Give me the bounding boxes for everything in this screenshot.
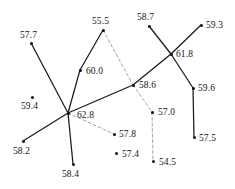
graph-node-dot[interactable] — [113, 133, 116, 136]
graph-node-label: 62.8 — [77, 110, 94, 120]
graph-node-label: 57.5 — [199, 133, 216, 143]
graph-node-dot[interactable] — [72, 163, 75, 166]
graph-node-dot[interactable] — [30, 42, 33, 45]
graph-node-label: 58.7 — [137, 12, 154, 22]
graph-node-label: 58.2 — [13, 146, 30, 156]
graph-node-label: 60.0 — [86, 66, 103, 76]
graph-edges-layer — [0, 0, 235, 189]
graph-node-dot[interactable] — [148, 25, 151, 28]
graph-node-label: 59.3 — [206, 20, 223, 30]
graph-node-dot[interactable] — [192, 87, 195, 90]
graph-node-label: 57.8 — [119, 129, 136, 139]
graph-node-dot[interactable] — [31, 96, 34, 99]
graph-edge — [171, 54, 193, 88]
graph-edge — [68, 70, 80, 113]
graph-node-label: 54.5 — [159, 157, 176, 167]
graph-node-label: 61.8 — [176, 49, 193, 59]
graph-node-dot[interactable] — [132, 84, 135, 87]
graph-node-dot[interactable] — [79, 69, 82, 72]
graph-node-label: 59.6 — [198, 83, 215, 93]
graph-node-dot[interactable] — [170, 53, 173, 56]
graph-node-label: 57.0 — [158, 107, 175, 117]
graph-edge — [80, 30, 103, 70]
diagram-canvas: 57.755.558.759.360.061.858.659.659.462.8… — [0, 0, 235, 189]
graph-edge — [68, 85, 133, 113]
graph-node-dot[interactable] — [152, 160, 155, 163]
graph-node-dot[interactable] — [22, 140, 25, 143]
graph-node-label: 57.7 — [20, 30, 37, 40]
graph-edge — [103, 30, 133, 85]
graph-node-dot[interactable] — [200, 24, 203, 27]
graph-node-dot[interactable] — [102, 29, 105, 32]
graph-edge — [68, 113, 73, 164]
graph-node-label: 59.4 — [21, 101, 38, 111]
graph-node-dot[interactable] — [193, 136, 196, 139]
graph-node-label: 57.4 — [122, 149, 139, 159]
graph-node-dot[interactable] — [67, 112, 70, 115]
graph-edge — [152, 112, 153, 161]
graph-edge — [149, 26, 171, 54]
graph-node-dot[interactable] — [115, 152, 118, 155]
graph-edge — [193, 88, 194, 137]
graph-node-label: 58.4 — [62, 169, 79, 179]
graph-node-dot[interactable] — [151, 111, 154, 114]
graph-node-label: 58.6 — [139, 80, 156, 90]
graph-edge — [23, 113, 68, 141]
graph-node-label: 55.5 — [92, 16, 109, 26]
